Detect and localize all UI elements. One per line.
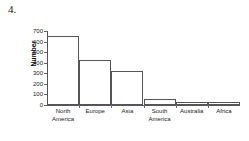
bar — [111, 71, 143, 105]
y-axis-tick — [44, 105, 47, 106]
x-axis-category-label: Australia — [176, 108, 208, 116]
x-axis-category-label-line: Australia — [176, 108, 208, 116]
y-axis-tick-label: 500 — [33, 49, 43, 55]
y-axis-tick-label: 700 — [33, 28, 43, 34]
x-axis-category-label-line: Africa — [208, 108, 240, 116]
x-axis-category-label: Asia — [111, 108, 143, 116]
y-axis-tick-label: 600 — [33, 39, 43, 45]
y-axis-tick — [44, 31, 47, 32]
y-axis-tick-label: 300 — [33, 70, 43, 76]
bar — [144, 99, 176, 105]
y-axis-tick-label: 200 — [33, 81, 43, 87]
bar-chart-figure: Number 7006005004003002001000 NorthAmeri… — [0, 18, 249, 141]
y-axis-tick-label: 0 — [40, 102, 43, 108]
y-axis-tick-label: 400 — [33, 60, 43, 66]
x-axis-category-labels: NorthAmericaEuropeAsiaSouthAmericaAustra… — [47, 108, 240, 134]
x-axis-category-label: Europe — [79, 108, 111, 116]
plot-area: 7006005004003002001000 — [47, 31, 240, 105]
question-number: 4. — [8, 3, 16, 15]
x-axis-category-label: SouthAmerica — [144, 108, 176, 123]
x-axis-category-label: NorthAmerica — [47, 108, 79, 123]
x-axis-category-label-line: South — [144, 108, 176, 116]
x-axis-category-label: Africa — [208, 108, 240, 116]
bar — [79, 60, 111, 105]
x-axis-category-label-line: Europe — [79, 108, 111, 116]
y-axis-tick-label: 100 — [33, 91, 43, 97]
bar — [176, 102, 208, 105]
x-axis-category-label-line: North — [47, 108, 79, 116]
bar — [208, 102, 240, 105]
bar — [47, 36, 79, 105]
x-axis-category-label-line: Asia — [111, 108, 143, 116]
x-axis-category-label-line: America — [47, 116, 79, 124]
x-axis-category-label-line: America — [144, 116, 176, 124]
